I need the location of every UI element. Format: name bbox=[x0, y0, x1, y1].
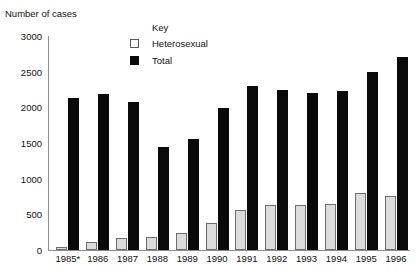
y-axis-tick-label: 3000 bbox=[2, 31, 42, 42]
x-axis-tick-label: 1985* bbox=[55, 253, 80, 264]
bar-group bbox=[322, 36, 352, 250]
x-axis-tick-label: 1986 bbox=[87, 253, 108, 264]
bar-group bbox=[143, 36, 173, 250]
bar-total bbox=[307, 93, 318, 250]
bar-heterosexual bbox=[385, 196, 396, 250]
bar-group bbox=[172, 36, 202, 250]
bar-heterosexual bbox=[176, 233, 187, 250]
bar-total bbox=[277, 90, 288, 250]
bar-heterosexual bbox=[56, 247, 67, 250]
bar-heterosexual bbox=[86, 242, 97, 250]
x-axis-tick-label: 1989 bbox=[177, 253, 198, 264]
bar-heterosexual bbox=[146, 237, 157, 250]
x-axis-tick-label: 1987 bbox=[117, 253, 138, 264]
bars-layer bbox=[49, 36, 410, 250]
bar-heterosexual bbox=[235, 210, 246, 250]
bar-group bbox=[292, 36, 322, 250]
bar-heterosexual bbox=[325, 204, 336, 250]
bar-total bbox=[397, 57, 408, 250]
x-axis-tick-label: 1995 bbox=[356, 253, 377, 264]
bar-total bbox=[98, 94, 109, 250]
bar-group bbox=[83, 36, 113, 250]
bar-heterosexual bbox=[116, 238, 127, 250]
x-axis-tick-label: 1990 bbox=[207, 253, 228, 264]
bar-heterosexual bbox=[265, 205, 276, 250]
bar-heterosexual bbox=[206, 223, 217, 250]
bar-group bbox=[262, 36, 292, 250]
bar-heterosexual bbox=[295, 205, 306, 250]
plot-area: 300025002000150010005000 1985*1986198719… bbox=[48, 36, 410, 250]
bar-heterosexual bbox=[355, 193, 366, 250]
bar-group bbox=[202, 36, 232, 250]
bar-total bbox=[158, 147, 169, 250]
bar-total bbox=[128, 102, 139, 250]
y-axis-title: Number of cases bbox=[5, 8, 77, 19]
bar-total bbox=[68, 98, 79, 250]
bar-group bbox=[53, 36, 83, 250]
bar-group bbox=[381, 36, 411, 250]
x-axis-tick-label: 1991 bbox=[236, 253, 257, 264]
bar-total bbox=[337, 91, 348, 250]
x-axis-line bbox=[48, 250, 410, 251]
y-axis-tick-label: 1000 bbox=[2, 173, 42, 184]
bar-group bbox=[113, 36, 143, 250]
x-axis-tick-label: 1996 bbox=[386, 253, 407, 264]
bar-group bbox=[351, 36, 381, 250]
legend-title: Key bbox=[152, 22, 208, 33]
y-axis-tick-label: 500 bbox=[2, 209, 42, 220]
y-axis-tick-label: 0 bbox=[2, 245, 42, 256]
bar-total bbox=[218, 108, 229, 250]
y-axis-tick-label: 1500 bbox=[2, 138, 42, 149]
x-axis-tick-label: 1993 bbox=[296, 253, 317, 264]
y-axis-tick-label: 2500 bbox=[2, 66, 42, 77]
bar-chart: Number of cases Key Heterosexual Total 3… bbox=[0, 0, 420, 280]
y-axis-tick-label: 2000 bbox=[2, 102, 42, 113]
bar-total bbox=[188, 139, 199, 250]
x-axis-tick-label: 1992 bbox=[266, 253, 287, 264]
bar-total bbox=[367, 72, 378, 250]
x-axis-tick-label: 1988 bbox=[147, 253, 168, 264]
bar-group bbox=[232, 36, 262, 250]
x-axis-tick-label: 1994 bbox=[326, 253, 347, 264]
bar-total bbox=[247, 86, 258, 250]
